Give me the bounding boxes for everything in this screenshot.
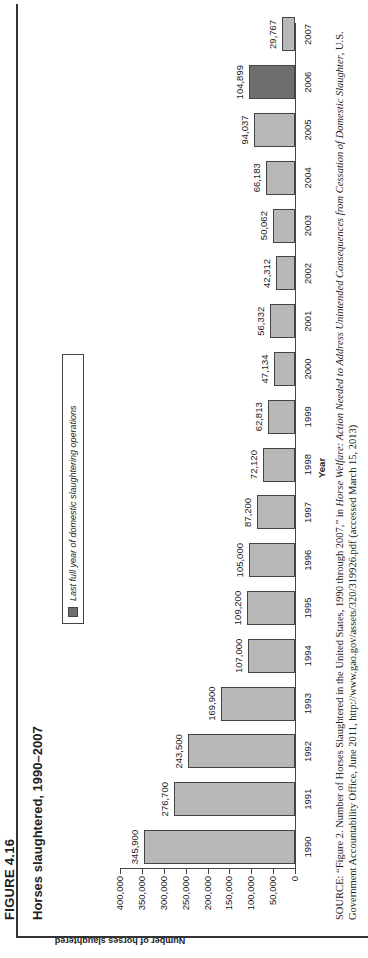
legend-label: Last full year of domestic slaughtering … <box>68 405 78 601</box>
x-tick-label: 1999 <box>302 397 313 437</box>
y-tick <box>251 869 252 874</box>
x-tick-label: 1997 <box>302 492 313 532</box>
bar-2002 <box>276 256 295 290</box>
chart-title: Horses slaughtered, 1990–2007 <box>30 726 45 920</box>
source-prefix: SOURCE: <box>334 876 345 920</box>
x-tick-label: 2004 <box>302 158 313 198</box>
x-tick-label: 1993 <box>302 684 313 724</box>
y-tick <box>120 869 121 874</box>
bar-value-label: 29,767 <box>267 4 278 64</box>
bar-value-label: 104,899 <box>234 52 245 112</box>
y-tick-label: 200,000 <box>202 876 213 926</box>
bar-1994 <box>248 639 295 673</box>
x-tick-label: 2007 <box>302 14 313 54</box>
bar-2001 <box>270 304 295 338</box>
x-axis-title: Year <box>316 458 327 478</box>
y-axis-title: Number of horses slaughtered <box>35 936 205 946</box>
y-tick <box>229 869 230 874</box>
source-title: Horse Welfare: Action Needed to Address … <box>334 55 345 506</box>
legend-swatch-icon <box>68 607 78 617</box>
bar-value-label: 276,700 <box>159 769 170 829</box>
y-tick <box>164 869 165 874</box>
bar-1999 <box>268 400 295 434</box>
y-tick <box>186 869 187 874</box>
chart-legend: Last full year of domestic slaughtering … <box>62 354 84 624</box>
figure-page: FIGURE 4.16 Horses slaughtered, 1990–200… <box>0 0 368 958</box>
y-tick-label: 350,000 <box>136 876 147 926</box>
bar-1991 <box>174 782 295 816</box>
bar-value-label: 345,900 <box>129 817 140 877</box>
y-tick <box>295 869 296 874</box>
bar-value-label: 66,183 <box>251 148 262 208</box>
y-tick-label: 300,000 <box>158 876 169 926</box>
bar-2005 <box>254 113 295 147</box>
y-tick <box>273 869 274 874</box>
x-tick-label: 2002 <box>302 253 313 293</box>
bar-2004 <box>266 161 295 195</box>
bar-2006 <box>249 65 295 99</box>
x-tick-label: 1998 <box>302 445 313 485</box>
y-tick-label: 250,000 <box>180 876 191 926</box>
x-tick-label: 1992 <box>302 731 313 771</box>
x-tick-label: 2005 <box>302 110 313 150</box>
figure-label: FIGURE 4.16 <box>2 839 17 920</box>
bar-1996 <box>249 543 295 577</box>
y-tick <box>142 869 143 874</box>
bar-2003 <box>273 209 295 243</box>
y-tick-label: 150,000 <box>223 876 234 926</box>
y-tick-label: 400,000 <box>114 876 125 926</box>
bar-1990 <box>144 830 295 864</box>
bar-value-label: 169,900 <box>206 674 217 734</box>
bar-1998 <box>263 448 295 482</box>
y-tick-label: 50,000 <box>267 876 278 926</box>
source-note: SOURCE: “Figure 2. Number of Horses Slau… <box>334 30 359 920</box>
x-tick-label: 2000 <box>302 349 313 389</box>
x-tick-label: 2006 <box>302 62 313 102</box>
bar-1993 <box>221 687 295 721</box>
bar-1992 <box>188 734 295 768</box>
x-tick-label: 1994 <box>302 636 313 676</box>
source-text-1: “Figure 2. Number of Horses Slaughtered … <box>334 506 345 875</box>
x-tick-label: 2003 <box>302 206 313 246</box>
x-axis <box>295 23 296 869</box>
bar-1997 <box>257 495 295 529</box>
x-tick-label: 2001 <box>302 301 313 341</box>
bar-1995 <box>247 591 295 625</box>
y-tick <box>208 869 209 874</box>
bar-2007 <box>282 17 295 51</box>
x-tick-label: 1996 <box>302 540 313 580</box>
x-tick-label: 1990 <box>302 827 313 867</box>
y-tick-label: 0 <box>289 876 300 926</box>
x-tick-label: 1991 <box>302 779 313 819</box>
x-tick-label: 1995 <box>302 588 313 628</box>
bar-2000 <box>274 352 295 386</box>
bar-value-label: 243,500 <box>173 721 184 781</box>
y-tick-label: 100,000 <box>245 876 256 926</box>
